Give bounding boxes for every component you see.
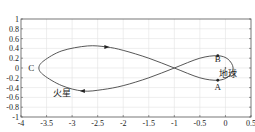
y-tick-label: -0.6 bbox=[6, 93, 19, 102]
annotations: ABC地球火星 bbox=[28, 54, 237, 98]
y-tick-label: 0.6 bbox=[9, 35, 19, 44]
x-tick-label: -3.5 bbox=[40, 119, 53, 128]
y-tick-label: -0.2 bbox=[6, 74, 19, 83]
y-tick-label: -0.8 bbox=[6, 103, 19, 112]
orbit-chart: -4-3.5-3-2.5-2-1.5-1-0.500.5 10.80.60.40… bbox=[0, 0, 255, 132]
y-tick-label: -1 bbox=[12, 113, 19, 122]
y-tick-label: 0.2 bbox=[9, 54, 19, 63]
x-tick-label: -2.5 bbox=[91, 119, 104, 128]
x-tick-label: 0 bbox=[223, 119, 227, 128]
arrow-bottom-icon bbox=[80, 89, 85, 93]
y-tick-label: -0.4 bbox=[6, 84, 19, 93]
x-tick-label: -0.5 bbox=[194, 119, 207, 128]
grid-lines bbox=[21, 19, 251, 117]
annotation-label: B bbox=[215, 54, 221, 64]
y-tick-label: 0 bbox=[15, 64, 19, 73]
trajectory-markers bbox=[80, 45, 226, 93]
trajectory-curve bbox=[39, 46, 233, 91]
y-tick-label: 1 bbox=[15, 15, 19, 24]
y-tick-label: 0.4 bbox=[9, 44, 19, 53]
y-axis-labels: 10.80.60.40.20-0.2-0.4-0.6-0.8-1 bbox=[6, 15, 19, 122]
x-tick-label: 0.5 bbox=[246, 119, 255, 128]
x-tick-label: -1 bbox=[171, 119, 178, 128]
annotation-label: C bbox=[28, 63, 34, 73]
x-axis-labels: -4-3.5-3-2.5-2-1.5-1-0.500.5 bbox=[18, 119, 255, 128]
annotation-label: A bbox=[215, 82, 222, 92]
annotation-label: 火星 bbox=[53, 88, 71, 98]
x-tick-label: -1.5 bbox=[142, 119, 155, 128]
annotation-label: 地球 bbox=[219, 68, 237, 79]
x-tick-label: -2 bbox=[120, 119, 127, 128]
y-tick-label: 0.8 bbox=[9, 25, 19, 34]
x-tick-label: -3 bbox=[69, 119, 76, 128]
